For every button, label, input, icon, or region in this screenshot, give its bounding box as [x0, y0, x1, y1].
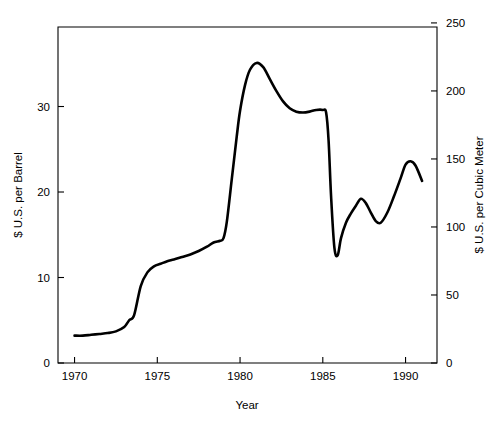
y-tick-label-left: 20 — [37, 186, 50, 198]
x-tick-label: 1985 — [310, 370, 336, 382]
oil-price-line-chart: 19701975198019851990 0102030 05010015020… — [0, 0, 501, 428]
y-tick-label-left: 10 — [37, 272, 50, 284]
x-axis-ticks: 19701975198019851990 — [62, 357, 419, 382]
y-axis-right-label: $ U.S. per Cubic Meter — [473, 136, 485, 253]
y-tick-label-left: 30 — [37, 101, 50, 113]
y-tick-label-right: 200 — [446, 85, 465, 97]
y-tick-label-right: 250 — [446, 17, 465, 29]
x-tick-label: 1970 — [62, 370, 88, 382]
data-series-line — [75, 63, 423, 336]
x-tick-label: 1980 — [227, 370, 253, 382]
y-axis-left-label: $ U.S. per Barrel — [12, 152, 24, 238]
y-tick-label-left: 0 — [44, 357, 50, 369]
y-tick-label-right: 100 — [446, 221, 465, 233]
chart-container: 19701975198019851990 0102030 05010015020… — [0, 0, 501, 428]
x-tick-label: 1975 — [145, 370, 171, 382]
y-axis-right-ticks: 050100150200250 — [431, 17, 465, 369]
y-axis-left-ticks: 0102030 — [37, 101, 64, 369]
y-tick-label-right: 50 — [446, 289, 459, 301]
x-axis-label: Year — [235, 399, 258, 411]
y-tick-label-right: 150 — [446, 153, 465, 165]
y-tick-label-right: 0 — [446, 357, 452, 369]
x-tick-label: 1990 — [393, 370, 419, 382]
